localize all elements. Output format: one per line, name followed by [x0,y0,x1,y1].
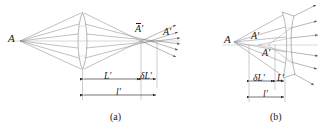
dimension-label-L-prime-a: L' [104,72,111,82]
optical-diagram-figure: A A' A' L' δL' l' (a) A A' A' δL' L' l' … [0,0,321,134]
panel-caption-b: (b) [270,112,282,122]
dimension-label-delta-L-prime-b: δL' [253,74,265,84]
dimension-label-L-prime-b: L' [277,74,284,84]
image-label-b-lower: A' [262,48,270,58]
object-label-b: A [224,34,231,45]
panel-caption-a: (a) [110,112,121,122]
image-label-a-marginal: A' [135,24,143,34]
dimension-label-l-prime-b: l' [263,90,268,100]
image-label-a-paraxial: A' [163,27,171,37]
image-label-b-upper: A' [251,31,259,41]
object-label-a: A [8,33,15,44]
dimension-label-delta-L-prime-a: δL' [140,72,152,82]
dimension-label-l-prime-a: l' [116,88,121,98]
panel-a-group [8,12,180,100]
biconvex-lens-a [77,12,87,70]
